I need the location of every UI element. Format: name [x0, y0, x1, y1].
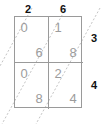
lattice-cell-r0c0: 0 6 — [15, 17, 49, 63]
lattice-cell-r1c1: 2 4 — [49, 63, 83, 109]
cell-tens-digit: 0 — [17, 67, 31, 80]
right-label-1: 4 — [88, 80, 100, 91]
lattice-multiplication-figure: 2 6 3 4 0 6 1 8 0 8 2 4 — [0, 0, 105, 124]
cell-units-digit: 8 — [66, 46, 80, 59]
top-label-1: 6 — [57, 4, 69, 15]
cell-tens-digit: 0 — [17, 21, 31, 34]
lattice-cell-r1c0: 0 8 — [15, 63, 49, 109]
lattice-cell-r0c1: 1 8 — [49, 17, 83, 63]
cell-tens-digit: 2 — [51, 67, 65, 80]
right-label-0: 3 — [88, 33, 100, 44]
lattice-grid: 0 6 1 8 0 8 2 4 — [14, 16, 82, 108]
cell-tens-digit: 1 — [51, 21, 65, 34]
cell-units-digit: 4 — [66, 92, 80, 105]
cell-units-digit: 8 — [32, 92, 46, 105]
top-label-0: 2 — [22, 4, 34, 15]
cell-units-digit: 6 — [32, 46, 46, 59]
